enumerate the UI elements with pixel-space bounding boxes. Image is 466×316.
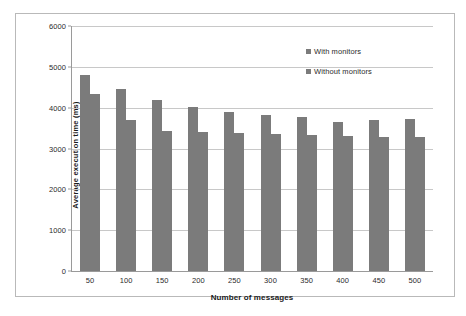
gridline bbox=[71, 271, 433, 272]
bar bbox=[343, 136, 353, 271]
y-axis-tick-label: 3000 bbox=[49, 144, 66, 153]
legend-item-without-monitors: Without monitors bbox=[306, 67, 426, 76]
x-axis-tick-label: 50 bbox=[72, 276, 108, 285]
bar bbox=[80, 75, 90, 271]
y-axis-tick-label: 4000 bbox=[49, 103, 66, 112]
y-axis-tick-mark bbox=[68, 189, 71, 190]
bar-group bbox=[180, 26, 216, 271]
y-axis-tick-label: 2000 bbox=[49, 185, 66, 194]
x-axis-tick-label: 400 bbox=[325, 276, 361, 285]
bar bbox=[261, 115, 271, 271]
bar bbox=[405, 119, 415, 271]
bar-group bbox=[108, 26, 144, 271]
legend-item-with-monitors: With monitors bbox=[306, 47, 426, 56]
y-axis-tick-mark bbox=[68, 26, 71, 27]
legend-label: Without monitors bbox=[314, 67, 372, 76]
bar-group bbox=[252, 26, 288, 271]
bar bbox=[369, 120, 379, 271]
bar bbox=[198, 132, 208, 271]
bar bbox=[379, 137, 389, 271]
bar bbox=[188, 107, 198, 271]
bar bbox=[415, 137, 425, 271]
bar-group bbox=[216, 26, 252, 271]
x-axis-tick-labels: 50100150200250300350400450500 bbox=[72, 276, 433, 285]
bar bbox=[116, 89, 126, 271]
y-axis-tick-mark bbox=[68, 148, 71, 149]
bar bbox=[152, 100, 162, 272]
bar bbox=[271, 134, 281, 271]
y-axis-tick-mark bbox=[68, 230, 71, 231]
x-axis-tick-label: 450 bbox=[361, 276, 397, 285]
bar-group bbox=[144, 26, 180, 271]
legend-swatch-icon bbox=[306, 69, 311, 74]
bar bbox=[234, 133, 244, 271]
y-axis-tick-label: 0 bbox=[62, 267, 66, 276]
legend-swatch-icon bbox=[306, 49, 311, 54]
bar bbox=[162, 131, 172, 271]
y-axis-tick-label: 6000 bbox=[49, 22, 66, 31]
chart-legend: With monitors Without monitors bbox=[306, 47, 426, 87]
bar bbox=[307, 135, 317, 271]
bar bbox=[333, 122, 343, 271]
x-axis-tick-label: 200 bbox=[180, 276, 216, 285]
x-axis-tick-label: 300 bbox=[252, 276, 288, 285]
x-axis-tick-label: 350 bbox=[289, 276, 325, 285]
y-axis-tick-label: 5000 bbox=[49, 62, 66, 71]
x-axis-tick-label: 100 bbox=[108, 276, 144, 285]
bar bbox=[224, 112, 234, 271]
bar bbox=[90, 94, 100, 271]
chart-figure: Average execution time (ms) 010002000300… bbox=[15, 13, 455, 297]
legend-label: With monitors bbox=[314, 47, 361, 56]
bar bbox=[297, 117, 307, 271]
y-axis-tick-mark bbox=[68, 271, 71, 272]
y-axis-tick-mark bbox=[68, 107, 71, 108]
bar-group bbox=[72, 26, 108, 271]
y-axis-tick-label: 1000 bbox=[49, 226, 66, 235]
x-axis-tick-label: 150 bbox=[144, 276, 180, 285]
bar bbox=[126, 120, 136, 271]
y-axis-tick-mark bbox=[68, 66, 71, 67]
x-axis-tick-label: 250 bbox=[216, 276, 252, 285]
x-axis-tick-label: 500 bbox=[397, 276, 433, 285]
x-axis-title: Number of messages bbox=[71, 293, 433, 302]
